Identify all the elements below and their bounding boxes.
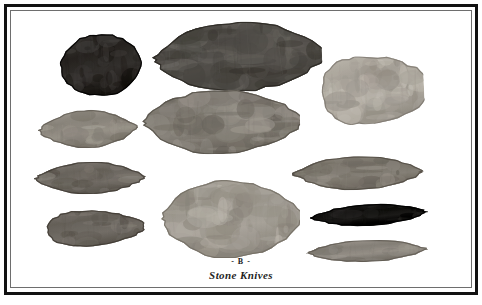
- wedge-blade-bottom-left: [45, 204, 146, 251]
- curved-blade-dark-right: [310, 201, 429, 229]
- plate-letter: - B -: [0, 257, 482, 266]
- frame-inner-top-rule: [10, 10, 472, 11]
- frame-inner-bottom-rule: [10, 287, 472, 288]
- large-ovate-blade-center: [139, 89, 300, 156]
- frame-outer-bottom-rule: [4, 292, 478, 295]
- lanceolate-blade-right-middle: [292, 155, 425, 191]
- frame-outer-left-rule: [4, 4, 7, 295]
- lanceolate-blade-left-middle: [34, 161, 147, 195]
- large-leaf-blade-top-center: [149, 19, 323, 95]
- frame-outer-right-rule: [475, 4, 478, 295]
- elongate-blade-left-upper: [37, 108, 138, 149]
- photographic-plate: - B - Stone Knives: [0, 0, 482, 305]
- plate-title: Stone Knives: [0, 269, 482, 281]
- frame-inner-left-rule: [10, 10, 11, 288]
- large-ovate-biface-bottom-center: [158, 180, 300, 258]
- ovate-blade-dark-top-left: [58, 31, 144, 99]
- frame-inner-right-rule: [471, 10, 472, 288]
- frame-outer-top-rule: [4, 4, 478, 7]
- teardrop-blade-right: [310, 53, 425, 127]
